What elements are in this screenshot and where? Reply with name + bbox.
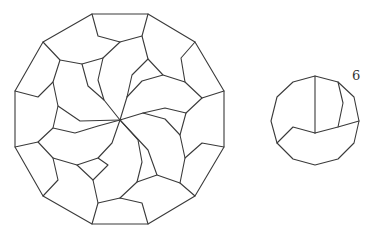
large-tiling-line-12 [98, 198, 148, 224]
large-tiling-line-5 [53, 82, 120, 121]
large-tiling-line-6 [15, 106, 58, 147]
large-tiling-line-18 [143, 108, 186, 135]
large-tiling-line-19 [186, 91, 224, 113]
large-tiling-line-15 [157, 175, 195, 196]
large-tiling-line-0 [92, 14, 148, 42]
small-piece-line-1 [315, 121, 359, 133]
large-tiling-line-11 [93, 158, 108, 180]
piece-number-label: 6 [352, 68, 360, 83]
dissection-diagram: 6 [0, 0, 374, 236]
large-tiling-line-8 [38, 142, 58, 196]
large-tiling-line-2 [43, 42, 103, 64]
small-piece-line-2 [338, 82, 343, 127]
large-tiling-line-14 [120, 120, 157, 182]
large-tiling-line-17 [120, 113, 185, 158]
large-dodecagon-inner-lines [15, 14, 224, 224]
large-dodecagon-tiling [15, 14, 224, 224]
large-tiling-line-9 [53, 120, 120, 165]
large-tiling-line-16 [180, 143, 224, 183]
large-tiling-line-23 [127, 75, 163, 97]
small-dodecagon-piece: 6 [271, 68, 360, 165]
large-tiling-line-1 [98, 42, 120, 120]
large-tiling-line-20 [181, 42, 202, 98]
large-tiling-line-7 [53, 120, 120, 133]
small-piece-line-3 [277, 127, 315, 143]
large-tiling-line-10 [77, 165, 98, 224]
